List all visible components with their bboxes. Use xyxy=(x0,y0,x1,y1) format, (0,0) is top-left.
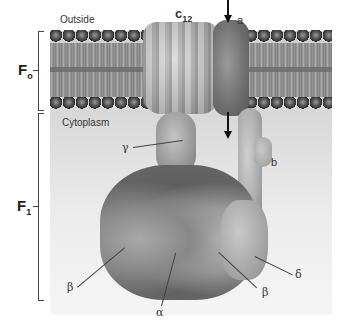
cytoplasm-label: Cytoplasm xyxy=(62,117,109,128)
subunit-b-bulge xyxy=(254,137,272,167)
proton-inflow-arrow xyxy=(227,0,229,16)
outside-label: Outside xyxy=(60,14,94,25)
alpha-label: α xyxy=(156,306,163,319)
c12-ring xyxy=(143,22,219,114)
subunit-b-label: b xyxy=(271,156,277,168)
arrow-down-icon xyxy=(224,15,232,23)
c12-label: c12 xyxy=(175,6,192,24)
fo-bracket xyxy=(38,31,44,111)
beta-right-label: β xyxy=(262,286,268,299)
subunit-a xyxy=(213,20,249,116)
gamma-label: γ xyxy=(122,141,129,154)
beta-left-label: β xyxy=(67,281,73,294)
subunit-a-label: a xyxy=(237,14,243,26)
f1-bracket xyxy=(38,113,44,301)
fo-bracket-tick xyxy=(33,70,38,71)
arrow-down-icon xyxy=(224,131,232,139)
f1-label: F1 xyxy=(17,197,31,217)
delta-label: δ xyxy=(295,268,302,281)
subunit-delta-region xyxy=(220,200,268,280)
proton-outflow-arrow xyxy=(227,112,229,132)
f1-bracket-tick xyxy=(33,206,38,207)
fo-label: Fo xyxy=(18,61,33,81)
